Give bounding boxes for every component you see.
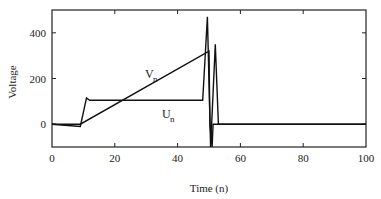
y-tick-label: 400 — [30, 27, 47, 39]
x-tick-label: 20 — [109, 152, 121, 164]
series-labels: VnUn — [145, 67, 175, 124]
y-axis-title: Voltage — [6, 65, 18, 99]
x-tick-label: 100 — [358, 152, 375, 164]
series-line-u-n — [52, 17, 366, 147]
series-label-subscript: n — [153, 74, 158, 84]
x-axis-title: Time (n) — [190, 182, 229, 195]
axis-ticks: 0204060801000200400 — [30, 10, 375, 164]
x-tick-label: 40 — [172, 152, 184, 164]
x-tick-label: 60 — [235, 152, 247, 164]
y-tick-label: 0 — [41, 118, 47, 130]
series-lines — [52, 17, 366, 147]
series-label-subscript: n — [170, 114, 175, 124]
x-tick-label: 80 — [298, 152, 310, 164]
x-tick-label: 0 — [49, 152, 55, 164]
voltage-time-chart: 0204060801000200400 VnUn Time (n) Voltag… — [0, 0, 381, 199]
y-tick-label: 200 — [30, 73, 47, 85]
